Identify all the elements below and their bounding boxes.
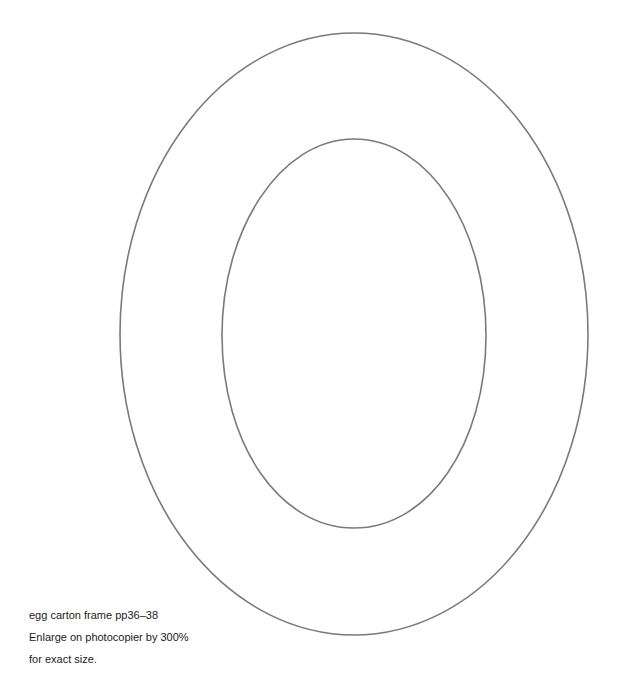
inner-frame-outline [222, 139, 486, 528]
frame-template [0, 0, 619, 700]
caption-title: egg carton frame pp36–38 [29, 604, 189, 626]
outer-frame-outline [120, 33, 588, 635]
caption-instruction: Enlarge on photocopier by 300% [29, 626, 189, 648]
caption-note: for exact size. [29, 648, 189, 670]
caption: egg carton frame pp36–38 Enlarge on phot… [29, 604, 189, 670]
